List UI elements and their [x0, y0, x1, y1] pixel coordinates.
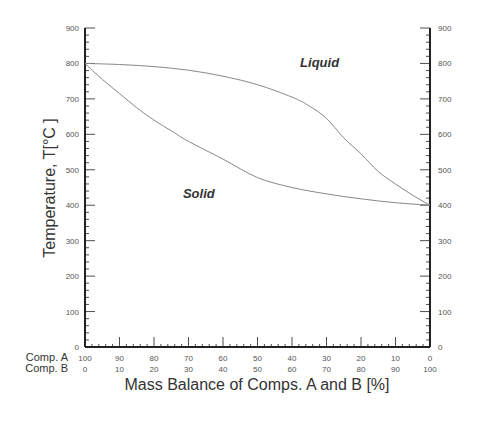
x-tick-label: 0: [428, 354, 433, 363]
x-axis-title: Mass Balance of Comps. A and B [%]: [124, 376, 389, 393]
x-tick-label: 60: [219, 354, 228, 363]
y-axis-right-tick-labels: 0100200300400500600700800900: [438, 24, 452, 352]
y-tick-label: 600: [66, 130, 80, 139]
x-tick-label: 80: [150, 354, 159, 363]
x-tick-label: 40: [288, 354, 297, 363]
y-tick-label-right: 900: [438, 24, 452, 33]
x-tick-label: 30: [322, 354, 331, 363]
x-tick-label: 0: [83, 365, 88, 374]
x-tick-label: 40: [219, 365, 228, 374]
y-tick-label: 300: [66, 237, 80, 246]
y-tick-label-right: 800: [438, 59, 452, 68]
x-tick-label: 90: [391, 365, 400, 374]
y-tick-label-right: 700: [438, 95, 452, 104]
y-tick-label-right: 0: [438, 343, 443, 352]
y-tick-label-right: 300: [438, 237, 452, 246]
x-axis-tick-labels: Comp. A1009080706050403020100Comp. B0102…: [25, 351, 437, 374]
phase-curves: [85, 63, 430, 205]
phase-diagram-chart: 0100200300400500600700800900 01002003004…: [0, 0, 477, 422]
y-axis-title: Temperature, T[°C ]: [41, 118, 58, 257]
x-tick-label: 20: [150, 365, 159, 374]
x-tick-label: 70: [322, 365, 331, 374]
y-axis-left-tick-labels: 0100200300400500600700800900: [66, 24, 80, 352]
liquidus-curve: [85, 63, 430, 205]
y-tick-label: 900: [66, 24, 80, 33]
x-tick-label: 10: [115, 365, 124, 374]
x-tick-label: 80: [357, 365, 366, 374]
x-row-label: Comp. B: [25, 362, 68, 374]
y-tick-label-right: 500: [438, 166, 452, 175]
liquid-region-label: Liquid: [300, 55, 340, 70]
axis-ticks: [85, 28, 430, 347]
x-tick-label: 100: [78, 354, 92, 363]
y-tick-label: 400: [66, 201, 80, 210]
x-tick-label: 90: [115, 354, 124, 363]
y-tick-label: 0: [75, 343, 80, 352]
y-tick-label: 500: [66, 166, 80, 175]
x-tick-label: 60: [288, 365, 297, 374]
y-tick-label-right: 200: [438, 272, 452, 281]
x-tick-label: 70: [184, 354, 193, 363]
y-tick-label-right: 400: [438, 201, 452, 210]
y-tick-label: 100: [66, 308, 80, 317]
x-tick-label: 100: [423, 365, 437, 374]
y-tick-label: 700: [66, 95, 80, 104]
y-tick-label: 200: [66, 272, 80, 281]
x-tick-label: 20: [357, 354, 366, 363]
x-tick-label: 30: [184, 365, 193, 374]
solid-region-label: Solid: [183, 186, 216, 201]
x-tick-label: 50: [253, 354, 262, 363]
y-tick-label: 800: [66, 59, 80, 68]
x-tick-label: 10: [391, 354, 400, 363]
y-tick-label-right: 600: [438, 130, 452, 139]
y-tick-label-right: 100: [438, 308, 452, 317]
x-tick-label: 50: [253, 365, 262, 374]
chart-axes: [85, 28, 430, 347]
